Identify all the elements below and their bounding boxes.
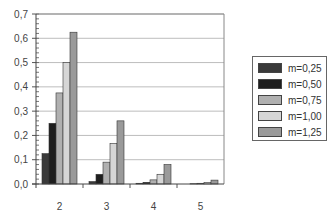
legend-label: m=0,75 [288,95,322,106]
y-tick-label: 0,2 [14,130,28,141]
bar [164,165,171,184]
x-axis-tick-labels: 2345 [57,201,204,212]
y-tick-label: 0,6 [14,33,28,44]
y-tick-label: 0,4 [14,81,28,92]
legend-swatch [258,127,282,137]
legend-item: m=0,25 [258,62,322,74]
bar [63,63,70,184]
legend-swatch [258,63,282,73]
x-tick-label: 5 [198,201,204,212]
bar [117,121,124,184]
y-tick-label: 0,7 [14,9,28,20]
legend-item: m=1,25 [258,126,322,138]
bar [96,174,103,184]
legend-label: m=0,25 [288,63,322,74]
bar [42,154,49,184]
bar [211,180,218,184]
y-tick-label: 0,1 [14,154,28,165]
x-tick-label: 4 [151,201,157,212]
bar [70,32,77,184]
y-tick-label: 0,3 [14,106,28,117]
legend-item: m=1,00 [258,110,322,122]
legend-label: m=0,50 [288,79,322,90]
bar [110,143,117,184]
x-tick-label: 2 [57,201,63,212]
x-tick-label: 3 [104,201,110,212]
legend-item: m=0,50 [258,78,322,90]
legend-swatch [258,111,282,121]
y-tick-label: 0,5 [14,57,28,68]
bar [49,123,56,184]
legend-item: m=0,75 [258,94,322,106]
legend: m=0,25m=0,50m=0,75m=1,00m=1,25 [252,56,327,141]
y-tick-label: 0,0 [14,179,28,190]
bar [150,180,157,184]
bar [157,174,164,184]
legend-swatch [258,79,282,89]
y-axis-tick-labels: 0,00,10,20,30,40,50,60,7 [14,9,28,190]
bars [42,32,218,184]
bar [56,93,63,184]
bar [103,162,110,184]
legend-swatch [258,95,282,105]
legend-label: m=1,00 [288,111,322,122]
legend-label: m=1,25 [288,127,322,138]
